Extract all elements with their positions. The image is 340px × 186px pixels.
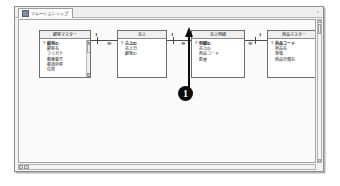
- table-title: 顧客マスター: [40, 31, 90, 39]
- annotation-callout-1: 1: [178, 86, 193, 101]
- canvas-vertical-scrollbar[interactable]: [317, 19, 322, 163]
- relationship-cardinality-one: 1: [259, 33, 262, 38]
- relationship-cardinality-many: ∞: [107, 41, 112, 46]
- table-box-product-master[interactable]: 商品マスター ⚲ 商品コード 商品名 単価 商品分類名: [267, 30, 316, 78]
- table-field-list[interactable]: ⚲ 売上ID 売上日 顧客ID: [118, 39, 166, 77]
- relationship-cardinality-one: 1: [171, 33, 174, 38]
- primary-key-icon: ⚲: [43, 41, 47, 46]
- arrow-shaft: [188, 36, 190, 89]
- table-field-list[interactable]: ⚲ 商品コード 商品名 単価 商品分類名: [268, 39, 316, 77]
- table-box-sales[interactable]: 売上 ⚲ 売上ID 売上日 顧客ID: [117, 30, 167, 78]
- relationship-line-3-tick: [255, 37, 256, 44]
- primary-key-icon: ⚲: [195, 41, 199, 46]
- scroll-thumb[interactable]: [318, 24, 321, 34]
- table-box-customer-master[interactable]: 顧客マスター ⚲ 顧客ID 顧客名 フリガナ 郵便番号: [39, 30, 91, 78]
- table-field-list[interactable]: ⚲ 明細ID 売上ID 商品コード 数量: [192, 39, 244, 77]
- table-field[interactable]: 数量: [192, 57, 244, 62]
- primary-key-icon: ⚲: [121, 41, 125, 46]
- table-box-sales-detail[interactable]: 売上明細 ⚲ 明細ID 売上ID 商品コード 数量: [191, 30, 245, 78]
- relationship-line-1[interactable]: [91, 40, 117, 41]
- table-title: 売上: [118, 31, 166, 39]
- table-field[interactable]: 顧客ID: [118, 51, 166, 56]
- table-field[interactable]: 住所: [40, 67, 90, 72]
- scroll-down-icon[interactable]: ▾: [87, 73, 91, 77]
- scroll-up-icon[interactable]: ▴: [87, 40, 91, 44]
- relationship-cardinality-one: 1: [95, 33, 98, 38]
- scroll-thumb[interactable]: [87, 44, 91, 53]
- scroll-thumb[interactable]: [24, 165, 29, 169]
- close-icon[interactable]: ×: [316, 10, 320, 14]
- scroll-left-icon[interactable]: [19, 165, 23, 169]
- table-title: 商品マスター: [268, 31, 316, 39]
- primary-key-icon: ⚲: [271, 41, 275, 46]
- document-tab-label: リレーションシップ: [31, 11, 68, 16]
- document-tab-strip: リレーションシップ ×: [15, 7, 323, 18]
- relationship-line-2-tick: [173, 37, 174, 44]
- document-tab-relationships[interactable]: リレーションシップ: [18, 8, 73, 18]
- relationship-line-1-tick: [97, 37, 98, 44]
- relationships-canvas[interactable]: 顧客マスター ⚲ 顧客ID 顧客名 フリガナ 郵便番号: [18, 19, 316, 163]
- relationship-icon: [22, 10, 29, 17]
- relationship-cardinality-many: ∞: [248, 41, 253, 46]
- scroll-down-icon[interactable]: [318, 159, 321, 162]
- table-field[interactable]: 商品分類名: [268, 57, 316, 62]
- table-field-list[interactable]: ⚲ 顧客ID 顧客名 フリガナ 郵便番号 都道府県: [40, 39, 90, 77]
- relationships-window: リレーションシップ × 顧客マスター ⚲ 顧客ID 顧客名 フリガナ: [14, 6, 324, 172]
- table-scrollbar[interactable]: ▴ ▾: [86, 40, 90, 77]
- annotation-arrow-icon: [185, 27, 193, 89]
- canvas-horizontal-scrollbar[interactable]: [18, 164, 316, 170]
- table-title: 売上明細: [192, 31, 244, 39]
